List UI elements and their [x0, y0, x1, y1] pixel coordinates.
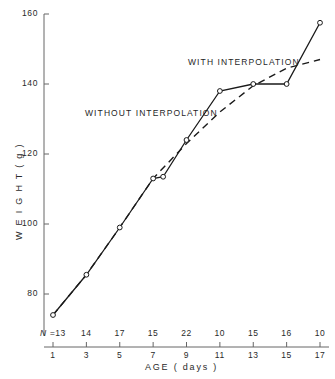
chart-figure: 80100120140160 1357911131517 N =13141715…	[0, 0, 335, 379]
data-point-marker	[51, 313, 56, 318]
data-point-marker	[251, 82, 256, 87]
data-point-marker	[161, 174, 166, 179]
data-point-marker	[117, 225, 122, 230]
data-point-marker	[284, 82, 289, 87]
y-tick-label: 140	[4, 78, 38, 88]
sample-size-label: 10	[300, 328, 335, 338]
x-axis-ticks	[53, 342, 320, 347]
sample-size-prefix: N =	[40, 328, 55, 338]
data-point-marker	[184, 138, 189, 143]
data-point-marker	[151, 176, 156, 181]
series-with-interpolation	[53, 60, 320, 316]
x-tick-label: 17	[300, 350, 335, 360]
annotation-with-interpolation: WITH INTERPOLATION	[188, 57, 300, 67]
data-point-marker	[318, 20, 323, 25]
y-axis-ticks	[44, 14, 49, 294]
y-axis-title: W E I G H T ( g )	[14, 143, 24, 240]
x-axis-title: AGE ( days )	[145, 362, 218, 372]
annotation-without-interpolation: WITHOUT INTERPOLATION	[85, 108, 218, 118]
data-point-marker	[217, 89, 222, 94]
y-tick-label: 80	[4, 288, 38, 298]
data-point-marker	[84, 272, 89, 277]
y-tick-label: 160	[4, 8, 38, 18]
